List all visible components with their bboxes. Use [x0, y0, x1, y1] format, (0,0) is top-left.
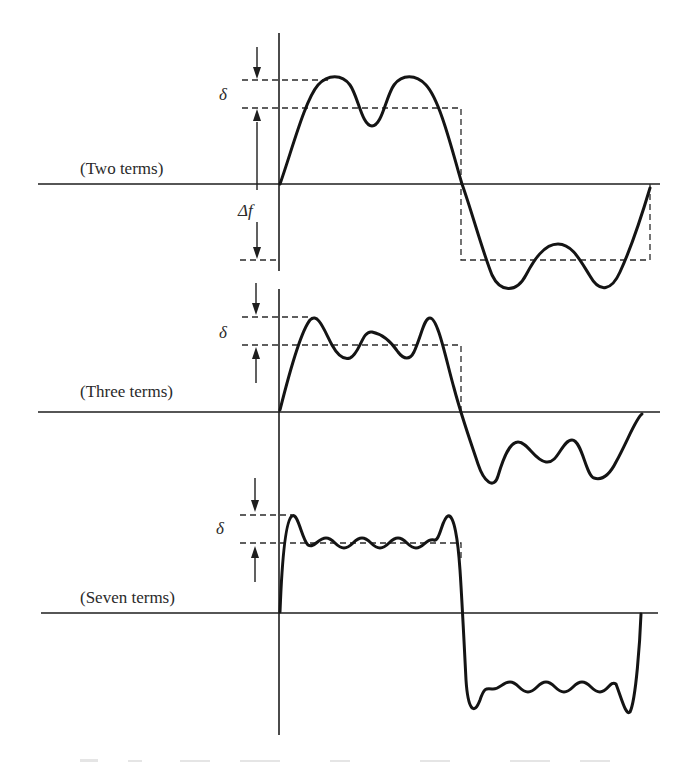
- delta-symbol: δ: [216, 519, 225, 538]
- delta-f-arrow-up: [253, 109, 261, 190]
- delta-f-symbol: Δf: [237, 201, 255, 220]
- delta-arrow-up: [251, 546, 259, 582]
- delta-arrow-down: [251, 478, 259, 512]
- ideal-square-wave: [242, 345, 461, 412]
- panel-label: (Three terms): [80, 382, 173, 401]
- panel-two-terms: (Two terms) δ Δf: [38, 33, 660, 289]
- delta-arrow-down: [253, 47, 261, 79]
- delta-arrow-up: [252, 347, 260, 383]
- panel-label: (Two terms): [80, 159, 163, 178]
- panel-seven-terms: (Seven terms) δ: [41, 478, 658, 713]
- delta-arrow-down: [252, 283, 260, 315]
- panel-label: (Seven terms): [80, 588, 175, 607]
- panel-three-terms: (Three terms) δ: [38, 283, 660, 735]
- delta-symbol: δ: [219, 323, 228, 342]
- delta-f-arrow-down: [253, 222, 261, 259]
- delta-symbol: δ: [219, 85, 228, 104]
- gibbs-figure: (Two terms) δ Δf (Three terms) δ: [0, 0, 690, 762]
